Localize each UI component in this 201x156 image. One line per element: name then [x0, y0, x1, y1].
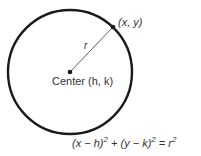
equation-plus: +	[108, 137, 121, 149]
circle-equation: (x − h)2 + (y − k)2 = r2	[72, 137, 176, 149]
radius-line	[70, 27, 113, 72]
circle-point	[111, 25, 116, 30]
center-label: Center (h, k)	[52, 75, 113, 87]
equation-exp3: 2	[172, 135, 176, 144]
equation-equals: = r	[156, 137, 172, 149]
center-point	[68, 70, 73, 75]
equation-part2: (y − k)	[120, 137, 151, 149]
equation-part1: (x − h)	[72, 137, 103, 149]
radius-label: r	[84, 40, 87, 51]
point-label: (x, y)	[118, 16, 142, 28]
